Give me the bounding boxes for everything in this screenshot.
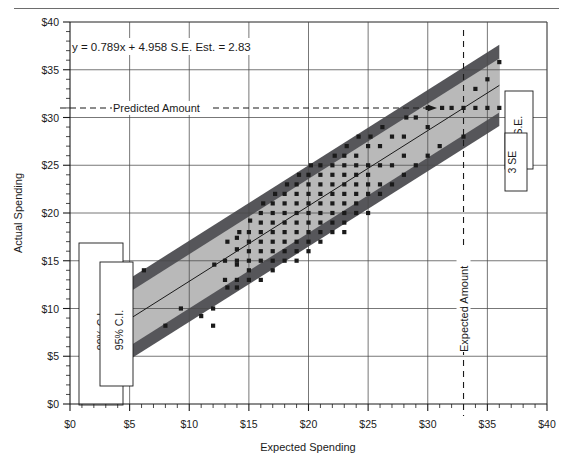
data-point xyxy=(247,259,251,263)
figure-root: Predicted Amount Expected Amount y = 0.7… xyxy=(0,0,571,467)
data-point xyxy=(199,314,203,318)
y-tick-label: $15 xyxy=(41,255,59,267)
data-point xyxy=(354,201,358,205)
data-point xyxy=(259,221,263,225)
data-point xyxy=(342,201,346,205)
data-point xyxy=(271,221,275,225)
y-axis-title: Actual Spending xyxy=(12,173,24,253)
data-point xyxy=(271,211,275,215)
data-point xyxy=(380,125,384,129)
data-point xyxy=(223,278,227,282)
data-point xyxy=(259,249,263,253)
x-tick-label: $35 xyxy=(479,418,497,430)
data-point xyxy=(271,268,275,272)
data-point xyxy=(366,144,370,148)
data-point xyxy=(259,211,263,215)
data-point xyxy=(390,163,394,167)
data-point xyxy=(318,201,322,205)
data-point xyxy=(259,259,263,263)
data-point xyxy=(247,230,251,234)
data-point xyxy=(318,173,322,177)
data-point xyxy=(179,306,183,310)
data-point xyxy=(235,278,239,282)
data-point xyxy=(378,192,382,196)
data-point xyxy=(354,163,358,167)
data-point xyxy=(318,230,322,234)
x-tick-label: $30 xyxy=(419,418,437,430)
x-tick-label: $15 xyxy=(240,418,258,430)
regression-equation-label: y = 0.789x + 4.958 S.E. Est. = 2.83 xyxy=(72,41,251,53)
data-point xyxy=(248,219,252,223)
data-point xyxy=(283,230,287,234)
data-point xyxy=(163,324,167,328)
data-point xyxy=(271,240,275,244)
data-point xyxy=(378,182,382,186)
data-point xyxy=(342,221,346,225)
x-tick-label: $0 xyxy=(64,418,76,430)
data-point xyxy=(306,211,310,215)
data-point xyxy=(309,163,313,167)
data-point xyxy=(378,144,382,148)
data-point xyxy=(473,106,477,110)
data-point xyxy=(259,230,263,234)
data-point xyxy=(402,173,406,177)
data-point xyxy=(414,163,418,167)
data-point xyxy=(295,182,299,186)
y-tick-label: $10 xyxy=(41,303,59,315)
x-tick-label: $5 xyxy=(124,418,136,430)
data-point xyxy=(342,211,346,215)
equation-annotation: y = 0.789x + 4.958 S.E. Est. = 2.83 xyxy=(68,38,280,55)
data-point xyxy=(357,135,361,139)
data-point xyxy=(366,192,370,196)
data-point xyxy=(235,259,239,263)
data-point xyxy=(342,163,346,167)
data-point xyxy=(366,211,370,215)
data-point xyxy=(485,106,489,110)
data-point xyxy=(426,125,430,129)
data-point xyxy=(306,173,310,177)
x-tick-label: $10 xyxy=(180,418,198,430)
x-axis-title: Expected Spending xyxy=(260,441,355,453)
data-point xyxy=(237,230,241,234)
data-point xyxy=(330,221,334,225)
data-point xyxy=(283,240,287,244)
y-tick-label: $5 xyxy=(47,350,59,362)
data-point xyxy=(295,259,299,263)
data-point xyxy=(318,221,322,225)
data-point xyxy=(330,201,334,205)
x-tick-label: $25 xyxy=(359,418,377,430)
data-point xyxy=(390,135,394,139)
expected-amount-label: Expected Amount xyxy=(458,266,470,352)
y-axis-ticks: $0$5$10$15$20$25$30$35$40 xyxy=(41,16,70,410)
data-point xyxy=(330,230,334,234)
data-point xyxy=(333,154,337,158)
data-point xyxy=(295,201,299,205)
ci-95-label: 95% C.I. xyxy=(113,310,125,350)
data-point xyxy=(342,173,346,177)
data-point xyxy=(390,182,394,186)
data-point xyxy=(426,154,430,158)
data-point xyxy=(259,240,263,244)
data-point xyxy=(354,154,358,158)
data-point xyxy=(368,135,372,139)
y-tick-label: $20 xyxy=(41,207,59,219)
data-point xyxy=(330,173,334,177)
data-point xyxy=(306,192,310,196)
data-point xyxy=(461,135,465,139)
data-point xyxy=(330,211,334,215)
data-point xyxy=(283,259,287,263)
data-point xyxy=(259,278,263,282)
data-point xyxy=(366,173,370,177)
data-point xyxy=(473,87,477,91)
chart-canvas: Predicted Amount Expected Amount y = 0.7… xyxy=(0,0,571,467)
data-point xyxy=(402,135,406,139)
data-point xyxy=(247,249,251,253)
y-tick-label: $25 xyxy=(41,159,59,171)
data-point xyxy=(318,163,322,167)
data-point xyxy=(342,154,346,158)
predicted-amount-label: Predicted Amount xyxy=(113,102,200,114)
y-tick-label: $30 xyxy=(41,112,59,124)
data-point xyxy=(297,173,301,177)
data-point xyxy=(440,106,444,110)
data-point xyxy=(261,201,265,205)
